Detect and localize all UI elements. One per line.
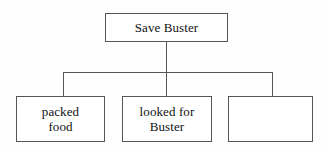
node-child-2-label: looked for Buster	[137, 104, 198, 135]
node-child-1[interactable]: packed food	[16, 96, 105, 142]
connector-horizontal-bus	[63, 72, 273, 73]
connector-drop-child-1	[63, 72, 64, 96]
node-child-1-label: packed food	[39, 104, 82, 135]
node-root[interactable]: Save Buster	[105, 13, 228, 42]
tree-diagram: Save Buster packed food looked for Buste…	[0, 0, 322, 149]
node-child-3-empty[interactable]	[228, 96, 313, 142]
connector-root-stem	[166, 41, 167, 73]
connector-drop-child-3	[272, 72, 273, 96]
node-root-label: Save Buster	[132, 20, 202, 35]
connector-drop-child-2	[166, 72, 167, 96]
node-child-2[interactable]: looked for Buster	[122, 96, 212, 142]
